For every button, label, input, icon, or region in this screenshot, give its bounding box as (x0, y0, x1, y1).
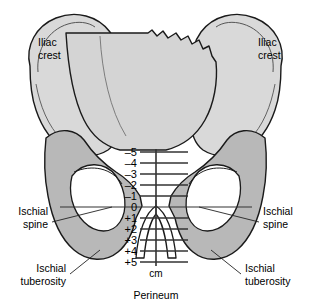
label-ischial-spine-right-line1: Ischial (263, 205, 293, 217)
scale-unit-label: cm (149, 268, 162, 279)
label-ischial-spine-right-line2: spine (263, 218, 288, 230)
label-ischial-spine-left-line2: spine (23, 218, 48, 230)
label-iliac-crest-right-line1: Iliac (258, 36, 277, 48)
scale-label-5: +5 (124, 256, 137, 268)
label-iliac-crest-right-line2: crest (258, 49, 281, 61)
label-ischial-spine-left-line1: Ischial (18, 205, 48, 217)
label-iliac-crest-left-line1: Iliac (38, 36, 57, 48)
label-ischial-tuberosity-left-line1: Ischial (36, 262, 66, 274)
label-ischial-tuberosity-right-line2: tuberosity (245, 275, 291, 287)
figure-caption-perineum: Perineum (134, 289, 179, 301)
label-ischial-tuberosity-left-line2: tuberosity (20, 275, 66, 287)
label-ischial-tuberosity-right-line1: Ischial (245, 262, 275, 274)
label-iliac-crest-left-line2: crest (38, 49, 61, 61)
pelvis-station-diagram: –5–4–3–2–10+1+2+3+4+5 cm Iliac crest Ili… (0, 0, 311, 307)
